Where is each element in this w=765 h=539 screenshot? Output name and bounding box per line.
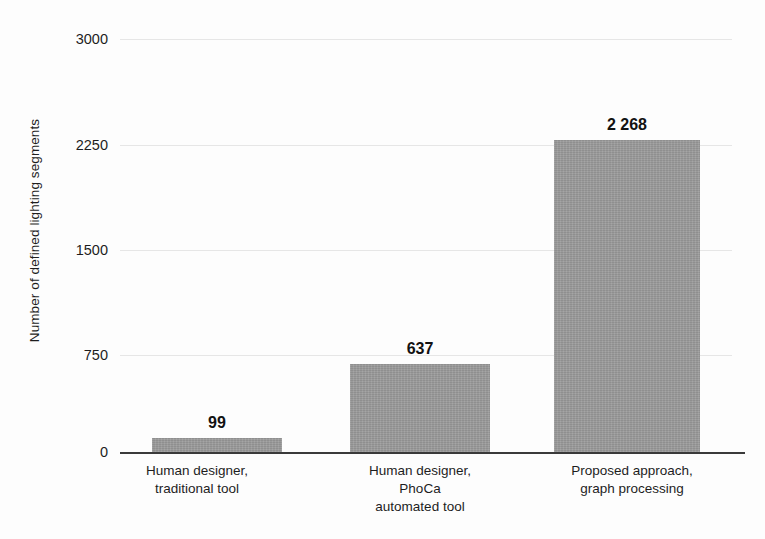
x-category-label-2-line-1: graph processing — [537, 480, 727, 498]
x-category-label-1: Human designer, PhoCa automated tool — [330, 462, 510, 515]
bar-value-label-1: 637 — [350, 341, 490, 357]
x-category-label-1-line-2: automated tool — [330, 498, 510, 516]
x-category-label-2-line-0: Proposed approach, — [537, 462, 727, 480]
y-axis-title: Number of defined lighting segments — [20, 0, 50, 460]
x-category-label-0: Human designer, traditional tool — [107, 462, 287, 498]
x-category-label-1-line-1: PhoCa — [330, 480, 510, 498]
bar-human-designer-traditional-tool[interactable]: 99 — [152, 438, 282, 452]
bar-human-designer-phoca-automated-tool[interactable]: 637 — [350, 364, 490, 452]
y-tick-label-750: 750 — [84, 348, 108, 363]
x-axis-line — [120, 452, 745, 454]
x-category-label-0-line-1: traditional tool — [107, 480, 287, 498]
x-category-label-1-line-0: Human designer, — [330, 462, 510, 480]
bar-chart-figure: Number of defined lighting segments 3000… — [0, 0, 765, 539]
y-tick-label-1500: 1500 — [76, 243, 108, 258]
y-tick-label-2250: 2250 — [76, 138, 108, 153]
y-axis-title-text: Number of defined lighting segments — [28, 118, 43, 341]
bar-value-label-2: 2 268 — [554, 117, 700, 133]
bar-value-label-0: 99 — [152, 415, 282, 431]
plot-area: 3000 2250 1500 750 0 99 637 2 268 — [120, 39, 745, 452]
gridline-3000: 3000 — [120, 39, 732, 40]
y-tick-label-0: 0 — [100, 445, 108, 460]
x-category-label-0-line-0: Human designer, — [107, 462, 287, 480]
y-tick-label-3000: 3000 — [76, 32, 108, 47]
bar-proposed-approach-graph-processing[interactable]: 2 268 — [554, 140, 700, 452]
x-category-label-2: Proposed approach, graph processing — [537, 462, 727, 498]
